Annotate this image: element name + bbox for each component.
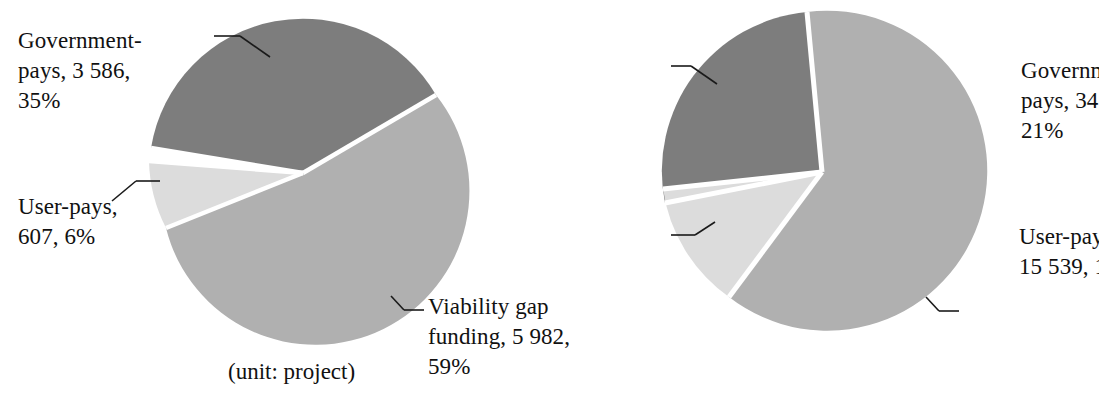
left-unit-caption: (unit: project)	[228, 358, 355, 387]
left-label-user-pays: User-pays, 607, 6%	[18, 192, 203, 252]
pie-chart-figure: Government- pays, 3 586, 35% User-pays, …	[0, 0, 1099, 402]
right-label-government-pays: Government- pays, 34 450, 21%	[1021, 56, 1099, 146]
left-label-government-pays: Government- pays, 3 586, 35%	[18, 26, 218, 116]
left-chart-panel: Government- pays, 3 586, 35% User-pays, …	[0, 0, 550, 402]
right-chart-panel: Government- pays, 34 450, 21% User-pays,…	[549, 0, 1099, 402]
right-pie-chart	[549, 0, 1099, 402]
right-label-user-pays: User-pays, 15 539, 10%	[1019, 222, 1099, 282]
